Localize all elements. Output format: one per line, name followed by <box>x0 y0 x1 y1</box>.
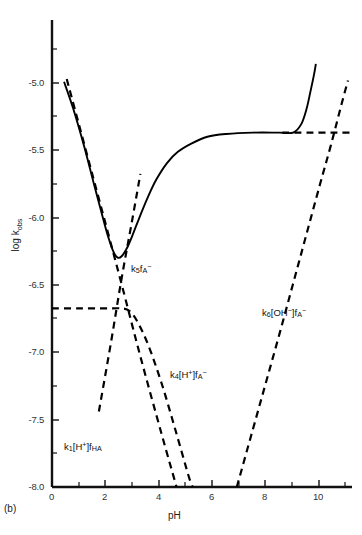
y-axis-title-sub: obs <box>15 219 24 231</box>
panel-label: (b) <box>4 503 16 514</box>
curve-k5fA- <box>99 174 141 412</box>
k6-fsup: − <box>302 306 306 315</box>
curve-label-k6: k6[OH−]fA− <box>262 306 306 319</box>
x-tick-label: 2 <box>102 491 107 502</box>
k6-mid: [OH <box>271 307 288 318</box>
y-axis-title-text: log k <box>10 230 21 251</box>
y-tick-label: -7.5 <box>18 414 44 425</box>
k1-mid: [H <box>73 441 83 452</box>
x-tick-label: 4 <box>156 491 161 502</box>
curve-label-k1: k1[H+]fHA <box>64 440 102 453</box>
x-tick-label: 8 <box>262 491 267 502</box>
curve-k1[H+]fHA <box>67 79 177 487</box>
plot-area <box>0 0 362 535</box>
curve-observed <box>64 64 316 258</box>
curve-k6[OH-]fA- <box>237 80 348 487</box>
y-tick-label: -5.0 <box>18 77 44 88</box>
k5-fsup: − <box>147 262 151 271</box>
k4-mid: [H <box>179 369 189 380</box>
k4-fsup: − <box>203 368 207 377</box>
figure-panel-b: -5.0 -5.5 -6.0 -6.5 -7.0 -7.5 -8.0 0 2 4… <box>0 0 362 535</box>
curve-label-k5: k5fA− <box>131 262 151 275</box>
y-axis-title: log kobs <box>10 205 24 265</box>
x-axis-title: pH <box>168 510 181 521</box>
y-tick-label: -8.0 <box>18 481 44 492</box>
x-tick-label: 10 <box>313 491 323 502</box>
x-tick-label: 6 <box>209 491 214 502</box>
y-tick-label: -7.0 <box>18 346 44 357</box>
curve-label-k4: k4[H+]fA− <box>170 368 207 381</box>
x-tick-label: 0 <box>49 491 54 502</box>
data-curves <box>52 64 352 487</box>
y-tick-label: -5.5 <box>18 144 44 155</box>
y-tick-label: -6.5 <box>18 279 44 290</box>
k1-fsub: HA <box>92 444 102 453</box>
curve-k4[H+]fA- <box>52 308 193 487</box>
